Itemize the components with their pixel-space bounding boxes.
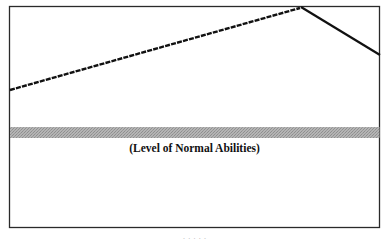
- chart-frame: [10, 7, 380, 228]
- normal-abilities-band: [10, 127, 380, 138]
- declining-solid-line: [301, 7, 380, 55]
- rising-dashed-line: [10, 8, 300, 90]
- abilities-chart: [0, 0, 389, 239]
- normal-abilities-label: (Level of Normal Abilities): [0, 142, 389, 154]
- cutoff-caption: · · · · ·: [0, 234, 389, 239]
